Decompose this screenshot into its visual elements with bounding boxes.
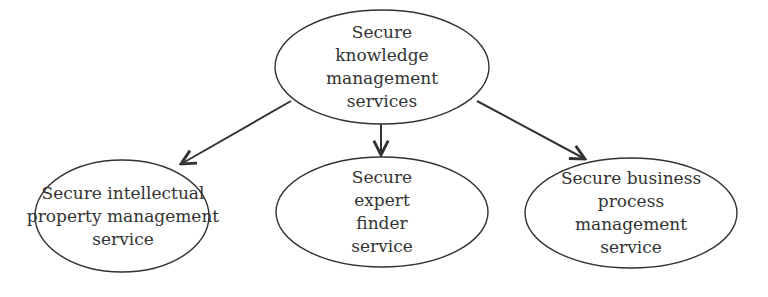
child-node-line: management: [575, 213, 687, 236]
child-node-line: property management: [27, 205, 219, 228]
child-node-line: service: [600, 236, 662, 259]
child-node-line: service: [351, 235, 413, 258]
root-node-line: knowledge: [335, 44, 428, 67]
child-node-ip: Secure intellectual property management …: [36, 164, 210, 268]
child-node-line: expert: [354, 189, 410, 212]
child-node-line: Secure intellectual: [42, 182, 205, 205]
root-node-line: services: [347, 90, 417, 113]
edge-root-to-bpm: [477, 101, 585, 159]
child-node-bpm: Secure business process management servi…: [525, 159, 737, 267]
root-node-line: Secure: [352, 21, 412, 44]
child-node-line: Secure business: [561, 167, 701, 190]
child-node-line: process: [598, 190, 664, 213]
child-node-line: Secure: [352, 166, 412, 189]
child-node-line: service: [92, 228, 154, 251]
root-node-line: management: [326, 67, 438, 90]
child-node-expert: Secure expert finder service: [276, 158, 488, 266]
child-node-line: finder: [356, 212, 407, 235]
root-node: Secure knowledge management services: [275, 14, 489, 120]
